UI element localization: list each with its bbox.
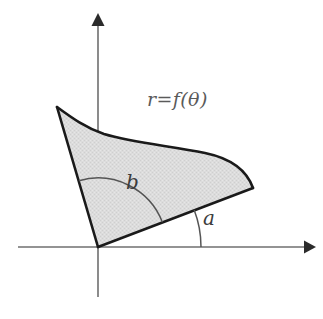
- angle-arc-a: [194, 210, 201, 247]
- polar-area-figure: r=f(θ) b a: [0, 0, 323, 319]
- curve-equation-label: r=f(θ): [147, 90, 208, 109]
- angle-b-label: b: [126, 172, 139, 192]
- y-axis-arrow-icon: [92, 13, 105, 26]
- x-axis-arrow-icon: [304, 241, 316, 254]
- diagram-canvas: [0, 0, 323, 319]
- shaded-region-group: [57, 107, 253, 247]
- angle-a-label: a: [203, 208, 215, 228]
